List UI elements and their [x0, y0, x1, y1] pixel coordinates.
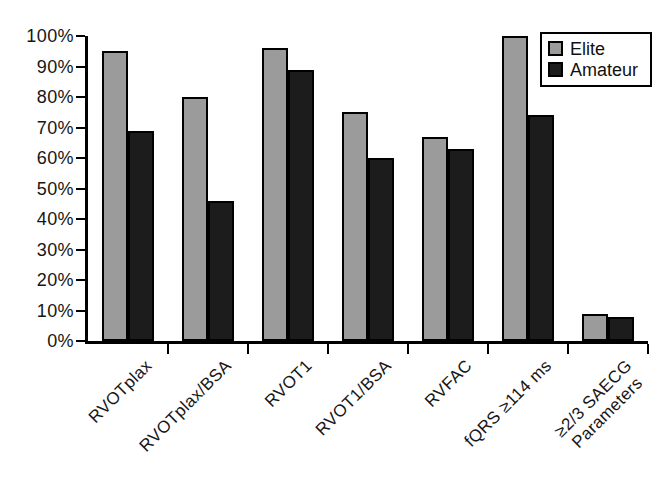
- x-axis-tick: [407, 344, 409, 354]
- y-tick-label: 70%: [0, 117, 74, 139]
- x-axis-tick: [167, 344, 169, 354]
- bar-elite-fqrs-114-ms: [502, 36, 528, 341]
- legend-label-amateur: Amateur: [570, 60, 638, 80]
- bar-amateur-fqrs-114-ms: [528, 115, 554, 341]
- y-tick-label: 0%: [0, 330, 74, 352]
- bar-chart-figure: Elite Amateur 0%10%20%30%40%50%60%70%80%…: [0, 0, 665, 488]
- bar-amateur--2-3-saecg-parameters: [608, 317, 634, 341]
- y-axis-tick: [76, 340, 85, 342]
- x-axis-tick: [487, 344, 489, 354]
- y-axis-tick: [76, 279, 85, 281]
- x-axis-line: [85, 341, 648, 344]
- bar-amateur-rvot1: [288, 70, 314, 341]
- y-tick-label: 40%: [0, 208, 74, 230]
- bar-elite--2-3-saecg-parameters: [582, 314, 608, 341]
- y-axis-tick: [76, 249, 85, 251]
- bar-elite-rvot1: [262, 48, 288, 341]
- y-axis-tick: [76, 188, 85, 190]
- x-axis-tick: [647, 344, 649, 354]
- bar-amateur-rvot1-bsa: [368, 158, 394, 341]
- bar-elite-rvotplax: [102, 51, 128, 341]
- legend-item-elite: Elite: [548, 38, 645, 59]
- y-axis-tick: [76, 66, 85, 68]
- x-axis-tick: [567, 344, 569, 354]
- y-axis-tick: [76, 35, 85, 37]
- x-category-label: RVOT1: [261, 356, 316, 411]
- x-category-label: RVOT1/BSA: [312, 356, 396, 440]
- y-tick-label: 60%: [0, 147, 74, 169]
- y-axis-line: [85, 36, 88, 344]
- y-axis-tick: [76, 218, 85, 220]
- y-axis-tick: [76, 310, 85, 312]
- bar-elite-rvot1-bsa: [342, 112, 368, 341]
- bar-elite-rvfac: [422, 137, 448, 341]
- y-tick-label: 30%: [0, 239, 74, 261]
- y-tick-label: 100%: [0, 25, 74, 47]
- legend-item-amateur: Amateur: [548, 59, 645, 80]
- legend-label-elite: Elite: [570, 39, 605, 59]
- x-axis-tick: [247, 344, 249, 354]
- y-tick-label: 50%: [0, 178, 74, 200]
- x-category-label: ≥2/3 SAECG Parameters: [550, 356, 650, 456]
- x-category-label: RVOTplax: [85, 356, 157, 428]
- y-tick-label: 20%: [0, 269, 74, 291]
- bar-amateur-rvfac: [448, 149, 474, 341]
- bar-elite-rvotplax-bsa: [182, 97, 208, 341]
- y-axis-tick: [76, 96, 85, 98]
- y-tick-label: 10%: [0, 300, 74, 322]
- bar-amateur-rvotplax-bsa: [208, 201, 234, 341]
- chart-legend: Elite Amateur: [540, 32, 652, 87]
- elite-swatch-icon: [548, 41, 563, 56]
- x-category-label: RVFAC: [421, 356, 476, 411]
- y-tick-label: 80%: [0, 86, 74, 108]
- y-axis-tick: [76, 127, 85, 129]
- x-axis-tick: [327, 344, 329, 354]
- y-tick-label: 90%: [0, 56, 74, 78]
- amateur-swatch-icon: [548, 62, 563, 77]
- y-axis-tick: [76, 157, 85, 159]
- bar-amateur-rvotplax: [128, 131, 154, 341]
